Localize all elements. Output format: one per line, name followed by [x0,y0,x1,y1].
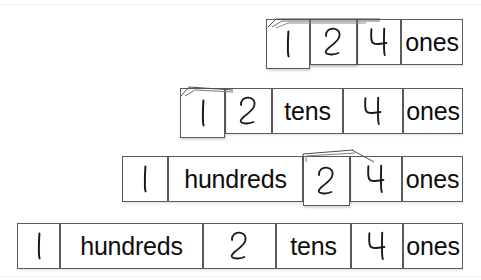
row-shadow [124,202,463,205]
handwritten-one-glyph [277,27,299,61]
row-shadow [19,269,463,272]
cell-ones-digit[interactable] [357,19,401,65]
handwritten-one-glyph [134,162,156,196]
handwritten-two-glyph [314,164,340,198]
handwritten-four-glyph [365,229,389,263]
handwritten-four-glyph [367,25,391,59]
handwritten-four-glyph [364,162,388,196]
cell-ones-word[interactable]: ones [403,223,463,269]
cell-tens-word[interactable]: tens [276,223,351,269]
cell-ones-digit[interactable] [350,156,402,202]
page-edge-top [0,4,481,5]
cell-hundreds-word[interactable]: hundreds [168,156,303,202]
cell-ones-word[interactable]: ones [403,88,463,134]
cell-tens-digit[interactable] [310,19,357,65]
handwritten-two-glyph [236,94,262,128]
cell-hundreds-digit[interactable] [266,19,310,69]
cell-tens-word[interactable]: tens [272,88,343,134]
row-hundreds-revealed: hundreds ones [122,156,463,202]
row-tens-revealed: tens ones [177,88,463,134]
cell-hundreds-digit[interactable] [180,88,225,138]
cell-hundreds-digit[interactable] [17,223,60,269]
row-folded-to-ones: ones [262,19,463,65]
cell-hundreds-word[interactable]: hundreds [60,223,203,269]
cell-ones-digit[interactable] [351,223,403,269]
cell-ones-digit[interactable] [343,88,403,134]
handwritten-two-glyph [227,229,253,263]
cell-tens-digit[interactable] [203,223,276,269]
handwritten-one-glyph [28,229,50,263]
cell-hundreds-digit[interactable] [122,156,168,202]
cell-tens-digit[interactable] [303,156,350,206]
row-fully-expanded: hundreds tens ones [17,223,463,269]
page-edge-bottom [0,276,481,277]
handwritten-two-glyph [321,25,347,59]
cell-ones-word[interactable]: ones [402,156,463,202]
place-value-card-diagram: ones tens [0,0,481,280]
handwritten-four-glyph [361,94,385,128]
cell-ones-word[interactable]: ones [401,19,463,65]
handwritten-one-glyph [192,96,214,130]
cell-tens-digit[interactable] [225,88,272,134]
